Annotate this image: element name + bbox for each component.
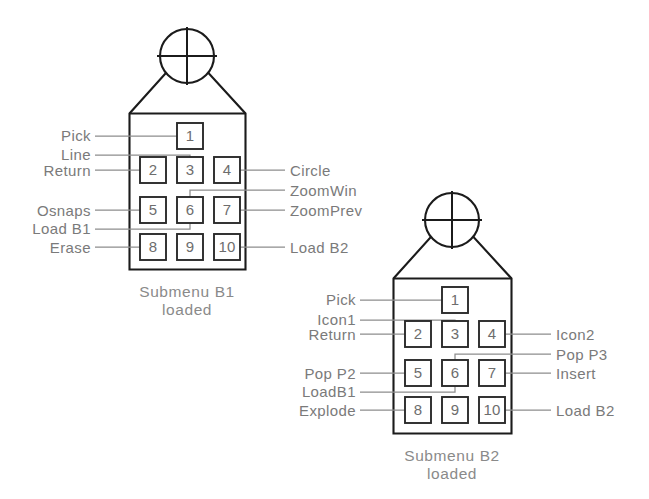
puck-b2-button-2-number: 2 — [414, 325, 423, 342]
puck-b2-button-7-number: 7 — [488, 364, 497, 381]
callout-zoomprev: ZoomPrev — [290, 202, 362, 219]
puck-b1-button-6-number: 6 — [186, 201, 195, 218]
puck-b2-button-8-number: 8 — [414, 401, 423, 418]
puck-b2-button-9-number: 9 — [451, 401, 460, 418]
callout-pick: Pick — [326, 291, 356, 308]
callout-pick: Pick — [61, 127, 91, 144]
callout-loadb1: LoadB1 — [302, 383, 356, 400]
puck-b1-button-5-number: 5 — [149, 201, 158, 218]
puck-b1-button-9-number: 9 — [186, 238, 195, 255]
puck-b2-button-1-number: 1 — [451, 291, 460, 308]
puck-b2-button-3-number: 3 — [451, 325, 460, 342]
callout-load-b2: Load B2 — [290, 239, 349, 256]
callout-pop-p3: Pop P3 — [556, 346, 608, 363]
callout-return: Return — [309, 326, 356, 343]
callout-circle: Circle — [290, 162, 331, 179]
puck-b1: 1 2 3 4 5 6 7 8 9 10 Pick Line Return — [32, 27, 362, 318]
callout-zoomwin: ZoomWin — [290, 182, 357, 199]
diagram-canvas: 1 2 3 4 5 6 7 8 9 10 Pick Line Return — [0, 0, 649, 499]
puck-b1-button-2-number: 2 — [149, 161, 158, 178]
puck-b2-button-5-number: 5 — [414, 364, 423, 381]
callout-explode: Explode — [299, 402, 356, 419]
puck-button-diagram: 1 2 3 4 5 6 7 8 9 10 Pick Line Return — [0, 0, 649, 499]
callout-icon2: Icon2 — [556, 326, 595, 343]
puck-b1-button-4-number: 4 — [223, 161, 232, 178]
puck-b2-button-10-number: 10 — [483, 401, 500, 418]
puck-b2-caption-line1: Submenu B2 — [404, 447, 500, 464]
puck-b1-button-1-number: 1 — [186, 127, 195, 144]
callout-load-b1: Load B1 — [32, 220, 91, 237]
puck-b1-caption-line2: loaded — [162, 301, 212, 318]
puck-b2-button-6-number: 6 — [451, 364, 460, 381]
callout-insert: Insert — [556, 365, 596, 382]
callout-return: Return — [44, 162, 91, 179]
callout-pop-p2: Pop P2 — [304, 365, 356, 382]
puck-b1-caption-line1: Submenu B1 — [139, 283, 235, 300]
callout-osnaps: Osnaps — [37, 202, 91, 219]
callout-line: Line — [61, 146, 91, 163]
callout-load-b2: Load B2 — [556, 402, 615, 419]
puck-b1-button-8-number: 8 — [149, 238, 158, 255]
puck-b2-caption-line2: loaded — [427, 465, 477, 482]
puck-b1-button-10-number: 10 — [218, 238, 235, 255]
puck-b2: 1 2 3 4 5 6 7 8 9 10 Pick Icon1 Return — [299, 191, 615, 482]
puck-b1-button-7-number: 7 — [223, 201, 232, 218]
puck-b1-button-3-number: 3 — [186, 161, 195, 178]
callout-erase: Erase — [50, 239, 91, 256]
puck-b2-button-4-number: 4 — [488, 325, 497, 342]
